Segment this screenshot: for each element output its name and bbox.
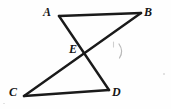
segment-CD	[24, 90, 109, 96]
scan-speck	[3, 103, 5, 104]
geometry-figure: A B C D E	[0, 0, 171, 109]
angle-arc-mark	[119, 44, 122, 58]
vertex-label-c: C	[9, 86, 17, 98]
vertex-label-d: D	[112, 86, 121, 98]
scan-speck	[163, 73, 165, 75]
vertex-label-e: E	[69, 43, 77, 55]
segment-CB	[24, 13, 141, 96]
segment-AB	[59, 13, 141, 16]
vertex-label-b: B	[144, 6, 152, 18]
vertex-label-a: A	[43, 6, 51, 18]
